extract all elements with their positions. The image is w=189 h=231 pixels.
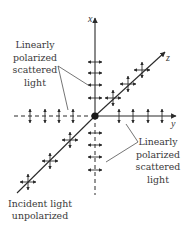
leader-line [58,66,88,85]
label-line: Linearly [138,136,178,147]
label-line: Incident light [8,198,72,209]
label-line: scattered [136,161,181,172]
y-axis-label: y [170,118,176,129]
leader-line [126,124,138,142]
upper-left-label: Linearly polarized scattered light [13,39,58,88]
label-line: unpolarized [12,210,68,221]
x-axis-label: x [87,13,93,24]
label-line: scattered [13,64,58,75]
lower-right-label: Linearly polarized scattered light [136,136,181,185]
label-line: Linearly [15,39,55,50]
label-line: polarized [136,149,180,160]
z-axis-label: z [165,52,170,63]
scattering-polarization-diagram: x y z Linearly polarized scattered light… [0,0,189,231]
incident-beam-line [17,116,95,193]
label-line: light [147,174,169,185]
label-line: polarized [13,52,57,63]
leader-line [106,142,138,162]
scatterer-origin-dot [91,112,98,119]
label-line: light [24,77,46,88]
leader-line [58,66,68,110]
incident-label: Incident light unpolarized [8,198,72,221]
